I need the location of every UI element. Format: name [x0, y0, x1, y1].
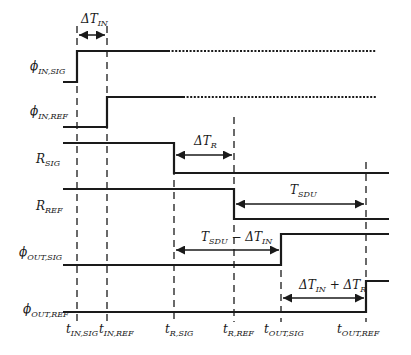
label-t-r-ref: tR,REF	[223, 322, 254, 338]
interval-arrows	[79, 35, 364, 298]
label-t-sdu-minus-dt-in: TSDU − ΔTIN	[201, 230, 273, 246]
waveform-phi-in-sig	[63, 51, 168, 82]
label-dt-in-plus-dt-r: ΔTIN + ΔTR	[298, 278, 366, 294]
label-t-in-sig: tIN,SIG	[66, 322, 99, 338]
label-phi-out-sig: ϕOUT,SIG	[19, 245, 63, 262]
label-r-sig: RSIG	[35, 152, 61, 168]
label-dt-r: ΔTR	[193, 134, 217, 150]
label-r-ref: RREF	[35, 199, 63, 215]
label-phi-in-ref: ϕIN,REF	[30, 104, 68, 121]
timing-diagram: ϕIN,SIG ϕIN,REF RSIG RREF ϕOUT,SIG ϕOUT,…	[0, 0, 411, 355]
waveform-phi-in-ref	[63, 97, 183, 127]
label-t-in-ref: tIN,REF	[99, 322, 134, 338]
label-t-out-ref: tOUT,REF	[337, 322, 380, 338]
waveform-r-sig	[63, 143, 389, 173]
label-t-r-sig: tR,SIG	[165, 322, 194, 338]
label-phi-in-sig: ϕIN,SIG	[30, 59, 66, 76]
label-t-out-sig: tOUT,SIG	[264, 322, 304, 338]
label-dt-in: ΔTIN	[80, 12, 109, 28]
time-labels: tIN,SIG tIN,REF tR,SIG tR,REF tOUT,SIG t…	[66, 322, 380, 338]
interval-labels: ΔTIN ΔTR TSDU TSDU − ΔTIN ΔTIN + ΔTR	[80, 12, 366, 294]
label-t-sdu: TSDU	[290, 183, 317, 199]
waveforms	[63, 51, 389, 312]
signal-labels: ϕIN,SIG ϕIN,REF RSIG RREF ϕOUT,SIG ϕOUT,…	[19, 59, 69, 319]
label-phi-out-ref: ϕOUT,REF	[23, 302, 69, 319]
